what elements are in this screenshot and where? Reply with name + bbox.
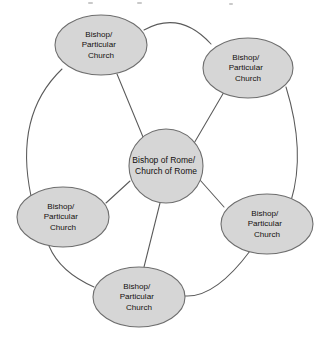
- diagram-canvas: Bishop/ Particular Church Bishop/ Partic…: [0, 0, 333, 346]
- peripheral-node-top-left[interactable]: Bishop/ Particular Church: [55, 15, 147, 75]
- spoke-center-to-left: [106, 181, 130, 203]
- spoke-center-to-top-right: [193, 92, 224, 145]
- node-label-center: Bishop of Rome/ Church of Rome: [132, 151, 199, 177]
- scan-artifacts: [88, 2, 233, 5]
- peripheral-node-top-right[interactable]: Bishop/ Particular Church: [203, 38, 293, 98]
- peripheral-node-right[interactable]: Bishop/ Particular Church: [221, 194, 313, 254]
- center-node-bishop-of-rome[interactable]: Bishop of Rome/ Church of Rome: [129, 129, 203, 203]
- ring-arc-left-upper: [27, 69, 62, 196]
- ring-arc-top: [144, 23, 211, 44]
- spoke-center-to-top-left: [117, 74, 143, 137]
- peripheral-node-bottom[interactable]: Bishop/ Particular Church: [93, 267, 185, 327]
- spoke-center-to-bottom: [144, 203, 160, 267]
- ring-arc-right-upper: [286, 87, 297, 201]
- spoke-center-to-right: [200, 180, 224, 207]
- communion-network-diagram: Bishop/ Particular Church Bishop/ Partic…: [0, 0, 333, 346]
- ring-arc-bottom-left: [49, 246, 94, 287]
- ring-arc-bottom-right: [185, 251, 250, 296]
- peripheral-node-left[interactable]: Bishop/ Particular Church: [17, 187, 109, 247]
